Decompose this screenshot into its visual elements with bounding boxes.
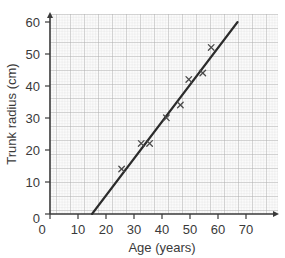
- y-tick-label: 50: [26, 47, 40, 62]
- x-tick-label: 30: [127, 222, 141, 237]
- x-tick-label: 10: [71, 222, 85, 237]
- plot-area-grid: [50, 14, 278, 214]
- y-tick-label: 60: [26, 15, 40, 30]
- y-tick-label: 40: [26, 79, 40, 94]
- y-axis-title: Trunk radius (cm): [4, 63, 19, 164]
- x-tick-label: 50: [183, 222, 197, 237]
- x-tick-label: 40: [155, 222, 169, 237]
- chart-canvas: 0 10 20 30 40 50 60 70 0 10 20 30 40 50 …: [0, 0, 285, 258]
- y-axis-tick-labels: 0 10 20 30 40 50 60: [26, 15, 40, 226]
- y-tick-label: 10: [26, 175, 40, 190]
- x-tick-label: 20: [99, 222, 113, 237]
- x-tick-label: 70: [239, 222, 253, 237]
- y-tick-label: 20: [26, 143, 40, 158]
- y-tick-label: 0: [33, 211, 40, 226]
- scatter-chart: 0 10 20 30 40 50 60 70 0 10 20 30 40 50 …: [0, 0, 285, 258]
- x-tick-label: 60: [211, 222, 225, 237]
- x-axis-title: Age (years): [128, 240, 195, 255]
- y-tick-label: 30: [26, 111, 40, 126]
- x-axis-tick-labels: 0 10 20 30 40 50 60 70: [38, 222, 253, 237]
